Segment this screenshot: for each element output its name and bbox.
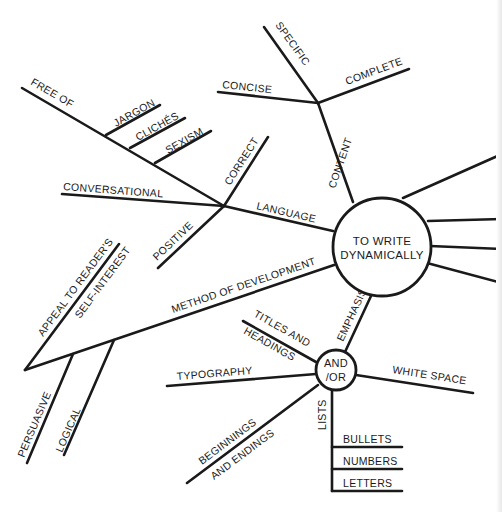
central-node: TO WRITE DYNAMICALLY bbox=[333, 198, 431, 296]
right-branch-3 bbox=[430, 246, 502, 249]
specific-label: SPECIFIC bbox=[273, 19, 312, 67]
content-branch: CONTENT SPECIFIC CONCISE COMPLETE bbox=[218, 19, 409, 202]
letters-label: LETTERS bbox=[343, 477, 392, 489]
method-label: METHOD OF DEVELOPMENT bbox=[170, 255, 318, 315]
lists-label: LISTS bbox=[316, 399, 328, 430]
sexism-label: SEXISM bbox=[163, 125, 205, 156]
right-branch-4 bbox=[427, 263, 502, 283]
bullets-label: BULLETS bbox=[343, 433, 392, 445]
right-branch-1 bbox=[403, 154, 502, 198]
page-edge-shadow bbox=[496, 0, 502, 512]
hub-label-line1: AND bbox=[324, 357, 348, 369]
language-branch: LANGUAGE FREE OF JARGON CLICHÉS SEXISM C… bbox=[22, 75, 333, 268]
numbers-label: NUMBERS bbox=[343, 455, 398, 467]
central-circle bbox=[333, 198, 431, 296]
beginnings-line bbox=[187, 385, 318, 483]
content-label: CONTENT bbox=[326, 136, 355, 190]
central-label-line2: DYNAMICALLY bbox=[340, 249, 424, 261]
central-label-line1: TO WRITE bbox=[353, 235, 411, 247]
mind-map-canvas: CONTENT SPECIFIC CONCISE COMPLETE LANGUA… bbox=[0, 0, 502, 512]
and-or-hub bbox=[316, 350, 356, 390]
appeal-line bbox=[25, 244, 119, 370]
right-branch-2 bbox=[428, 219, 502, 221]
hub-label-line2: /OR bbox=[326, 371, 346, 383]
emphasis-branch: EMPHASIS TITLES AND HEADINGS TYPOGRAPHY … bbox=[167, 286, 473, 491]
